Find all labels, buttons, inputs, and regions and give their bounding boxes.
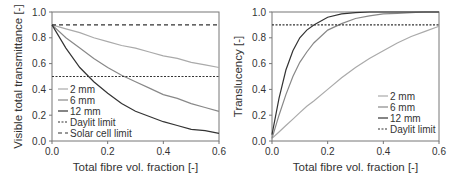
legend-label: 12 mm [70,106,101,117]
y-tick-label: 0.8 [252,32,266,43]
legend-label: Daylit limit [390,124,436,135]
y-tick-label: 0.2 [252,110,266,121]
legend: 2 mm6 mm12 mmDaylit limitSolar cell limi… [58,84,132,139]
y-tick-label: 0.4 [32,84,46,95]
y-axis-label: Translucency [-] [232,36,244,117]
x-tick-label: 0.6 [212,146,226,157]
legend-label: Daylit limit [70,117,116,128]
x-axis-label: Total fibre vol. fraction [-] [73,161,198,173]
y-tick-label: 0.0 [252,136,266,147]
y-axis-label: Visible total transmittance [-] [12,4,24,148]
legend-label: 2 mm [390,91,415,102]
x-tick-label: 0.2 [101,146,115,157]
y-tick-label: 1.0 [252,7,266,18]
y-tick-label: 0.6 [32,58,46,69]
legend-label: Solar cell limit [70,128,132,139]
legend-label: 2 mm [70,84,95,95]
legend-label: 12 mm [390,113,421,124]
x-tick-label: 0.6 [432,146,446,157]
legend-label: 6 mm [70,95,95,106]
x-axis-label: Total fibre vol. fraction [-] [293,161,418,173]
y-tick-label: 0.6 [252,58,266,69]
legend: 2 mm6 mm12 mmDaylit limit [378,91,436,135]
translucency-chart: 0.00.20.40.60.81.00.00.20.40.6Total fibr… [232,7,446,174]
x-tick-label: 0.0 [45,146,59,157]
y-tick-label: 0.2 [32,110,46,121]
y-tick-label: 1.0 [32,7,46,18]
x-tick-label: 0.4 [156,146,170,157]
x-tick-label: 0.2 [321,146,335,157]
transmittance-chart: 0.00.20.40.60.81.00.00.20.40.6Total fibr… [12,4,226,173]
legend-label: 6 mm [390,102,415,113]
x-tick-label: 0.0 [265,146,279,157]
y-tick-label: 0.4 [252,84,266,95]
y-tick-label: 0.8 [32,32,46,43]
x-tick-label: 0.4 [376,146,390,157]
y-tick-label: 0.0 [32,136,46,147]
figure: 0.00.20.40.60.81.00.00.20.40.6Total fibr… [0,0,460,181]
